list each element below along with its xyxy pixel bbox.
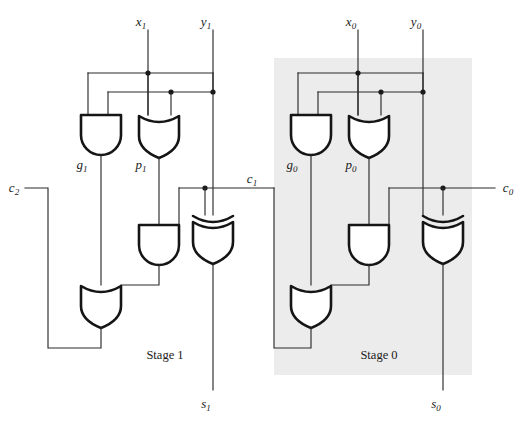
or-gate-carry-out-1[interactable] <box>81 286 121 328</box>
label-c1: c1 <box>247 171 257 188</box>
label-y1: y1 <box>199 14 211 31</box>
circuit-diagram-figure: x1 y1 x0 y0 g1 p1 g0 p0 c2 c1 c0 s1 s0 S… <box>0 0 529 421</box>
xor-gate-sum-1-extra-arc <box>193 216 233 222</box>
label-y0: y0 <box>409 14 422 31</box>
label-s1: s1 <box>201 396 211 413</box>
and-gate-carry-0[interactable] <box>349 225 389 265</box>
label-c0: c0 <box>503 180 514 197</box>
xor-gate-sum-1[interactable] <box>193 222 233 264</box>
label-x0: x0 <box>345 14 357 31</box>
label-stage-0: Stage 0 <box>360 348 397 362</box>
or-gate-p1[interactable] <box>139 116 179 158</box>
junction-y0-bus <box>420 89 425 94</box>
label-p1: p1 <box>135 157 147 174</box>
and-gate-g0[interactable] <box>291 115 331 155</box>
junction-y1-bus <box>210 89 215 94</box>
stage0-shaded-region <box>274 58 472 375</box>
label-stage-1: Stage 1 <box>146 348 183 362</box>
junction-x0-bus <box>355 70 360 75</box>
label-x1: x1 <box>135 14 146 31</box>
junction-y0-or-tap <box>378 89 383 94</box>
wire-and-carry-1-output <box>121 265 159 285</box>
and-gate-g1[interactable] <box>81 115 121 155</box>
and-gate-carry-1[interactable] <box>139 225 179 265</box>
junction-y1-or-tap <box>168 89 173 94</box>
label-g1: g1 <box>77 157 88 174</box>
junction-x1-bus <box>145 70 150 75</box>
label-c2: c2 <box>9 180 20 197</box>
wire-c2-output <box>25 188 101 348</box>
label-s0: s0 <box>431 396 441 413</box>
